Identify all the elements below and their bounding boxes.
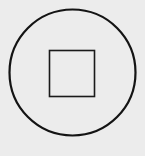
- circle-outline: [10, 10, 136, 136]
- square-glyph: [50, 51, 95, 97]
- stop-icon: [0, 0, 145, 156]
- stop-button[interactable]: Stop: [0, 0, 145, 156]
